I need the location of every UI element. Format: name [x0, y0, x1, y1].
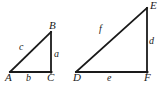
segment-de [76, 8, 147, 72]
geometry-figure: A B C a b c D E F d e f [0, 0, 163, 90]
vertex-label-c: C [47, 72, 54, 83]
triangles-drawing [0, 0, 163, 90]
triangle-abc-shape [10, 32, 52, 73]
side-label-b: b [26, 73, 31, 83]
side-label-d: d [149, 36, 154, 46]
segment-ab [10, 32, 51, 72]
side-label-a: a [54, 49, 59, 59]
vertex-label-d: D [73, 72, 81, 83]
vertex-label-b: B [49, 20, 56, 31]
side-label-e: e [107, 73, 111, 83]
vertex-label-e: E [150, 0, 157, 11]
vertex-label-a: A [5, 72, 12, 83]
vertex-label-f: F [144, 72, 151, 83]
triangle-def-shape [76, 8, 148, 73]
side-label-c: c [19, 42, 23, 52]
side-label-f: f [99, 24, 102, 34]
